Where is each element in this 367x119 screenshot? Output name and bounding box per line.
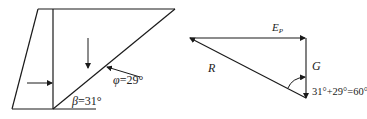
ep-label: EP [271,21,284,35]
diagram-canvas: φ=29° β=31° EP R G 31°+29°=60° [0,0,367,119]
phi-angle-label: φ=29° [113,73,143,87]
wall-sloped-edge [12,9,38,109]
retaining-wall-diagram: φ=29° β=31° [12,9,175,109]
force-triangle-diagram: EP R G 31°+29°=60° [190,21,367,98]
g-label: G [312,59,321,73]
r-label: R [207,61,216,75]
angle-arc-icon [288,77,305,88]
angle-sum-label: 31°+29°=60° [312,86,367,97]
beta-angle-label: β=31° [71,94,102,108]
